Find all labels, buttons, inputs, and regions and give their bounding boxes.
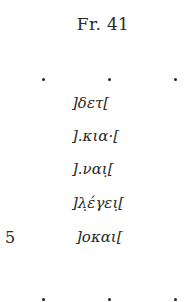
ellipsis-top (0, 78, 184, 88)
dot (174, 78, 177, 81)
line-text: ]οκαι[ (76, 228, 123, 246)
dot (108, 78, 111, 81)
text-line-4: ]λ̣έγει̣[ (0, 194, 184, 218)
dot (108, 298, 111, 301)
text-line-3: ].ναι̣[ (0, 160, 184, 184)
dot (42, 78, 45, 81)
line-text: ].κια·[ (72, 127, 119, 145)
line-text: ]λ̣έγει̣[ (72, 194, 124, 212)
text-line-2: ].κια·[ (0, 127, 184, 151)
line-text: ]δετ[ (72, 94, 109, 112)
dot (42, 298, 45, 301)
line-text: ].ναι̣[ (72, 160, 114, 178)
dot (174, 298, 177, 301)
line-number: 5 (5, 228, 15, 247)
text-line-1: ]δετ[ (0, 94, 184, 118)
text-line-5: 5 ]οκαι[ (0, 228, 184, 252)
ellipsis-bottom (0, 298, 184, 302)
fragment-title: Fr. 41 (0, 14, 184, 34)
